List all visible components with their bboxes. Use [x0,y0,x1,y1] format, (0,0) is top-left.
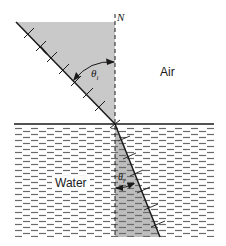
incidence-angle-label: θi [91,68,98,82]
water-region [14,127,214,237]
diagram-canvas [0,0,226,246]
normal-label: N [117,12,124,23]
angle-subscript: r [123,177,126,185]
water-label: Water [52,176,90,190]
air-label: Air [160,66,175,78]
angle-subscript: i [96,74,98,82]
refraction-angle-label: θr [118,172,126,185]
